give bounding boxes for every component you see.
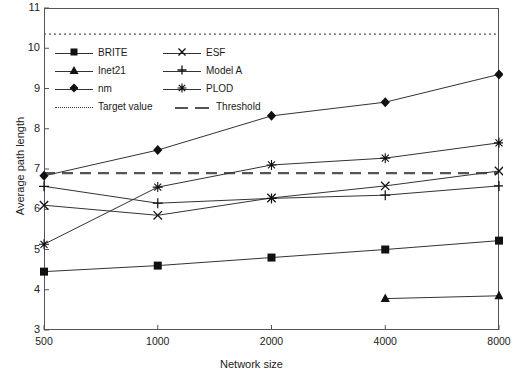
dotted-line-icon [55,101,93,113]
filled-diamond-icon [55,83,93,95]
x-cross-icon [163,47,201,59]
chart-legend: BRITE ESF Inet21 [55,44,270,116]
asterisk-icon [163,83,201,95]
legend-item-model-a: Model A [163,62,242,80]
legend-label-model-a: Model A [206,66,242,76]
legend-row: BRITE ESF [55,44,270,62]
legend-item-threshold: Threshold [173,98,260,116]
y-axis-title: Average path length [14,86,26,246]
legend-item-esf: ESF [163,44,225,62]
legend-label-inet21: Inet21 [98,66,126,76]
legend-item-brite: BRITE [55,44,127,62]
filled-square-icon [55,47,93,59]
legend-item-inet21: Inet21 [55,62,126,80]
legend-label-esf: ESF [206,48,225,58]
y-tick-label: 3 [12,324,40,335]
y-tick-label: 11 [12,2,40,13]
dashed-line-icon [173,101,211,113]
x-axis-tick-labels: 5001000200040008000 [0,336,503,356]
y-tick-label: 10 [12,42,40,53]
legend-row: Inet21 Model A [55,62,270,80]
legend-label-nm: nm [98,84,112,94]
x-axis-title: Network size [0,358,503,370]
legend-item-nm: nm [55,80,112,98]
legend-row: Target value Threshold [55,98,270,116]
x-tick-label: 1000 [133,336,183,347]
legend-label-plod: PLOD [206,84,233,94]
x-tick-label: 500 [19,336,69,347]
legend-item-plod: PLOD [163,80,233,98]
legend-row: nm PLOD [55,80,270,98]
filled-triangle-icon [55,65,93,77]
x-tick-label: 4000 [360,336,410,347]
x-tick-label: 2000 [247,336,297,347]
legend-label-brite: BRITE [98,48,127,58]
legend-item-target-value: Target value [55,98,152,116]
legend-label-threshold: Threshold [216,102,260,112]
legend-label-target-value: Target value [98,102,152,112]
plus-icon [163,65,201,77]
y-tick-label: 4 [12,284,40,295]
x-tick-label: 8000 [474,336,515,347]
